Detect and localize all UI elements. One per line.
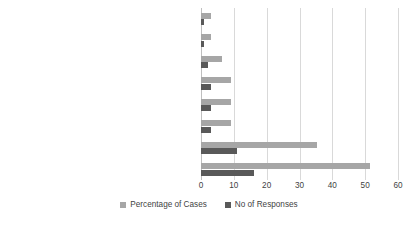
bar-percentage-of-cases[interactable] xyxy=(201,120,231,126)
bar-percentage-of-cases[interactable] xyxy=(201,77,231,83)
legend-item-percentage-of-cases[interactable]: Percentage of Cases xyxy=(120,200,206,209)
bar-no-of-responses[interactable] xyxy=(201,105,211,111)
bar-no-of-responses[interactable] xyxy=(201,62,208,68)
bar-group xyxy=(201,159,398,181)
value-axis-tick-label: 0 xyxy=(199,181,204,190)
bar-no-of-responses[interactable] xyxy=(201,84,211,90)
bar-percentage-of-cases[interactable] xyxy=(201,163,370,169)
bar-percentage-of-cases[interactable] xyxy=(201,13,211,19)
category-axis-labels: OtherLow quality of Social Insurance ser… xyxy=(0,8,197,180)
bar-percentage-of-cases[interactable] xyxy=(201,34,211,40)
bar-group xyxy=(201,51,398,73)
legend-swatch-icon xyxy=(120,202,126,208)
legend-label: No of Responses xyxy=(235,200,298,209)
bar-group xyxy=(201,30,398,52)
bar-no-of-responses[interactable] xyxy=(201,148,237,154)
plot-area xyxy=(201,8,398,180)
legend-item-no-of-responses[interactable]: No of Responses xyxy=(225,200,298,209)
value-axis-tick-label: 20 xyxy=(262,181,271,190)
bar-percentage-of-cases[interactable] xyxy=(201,142,317,148)
bar-group xyxy=(201,94,398,116)
value-axis-ticks: 0102030405060 xyxy=(201,181,398,195)
value-axis-tick-label: 10 xyxy=(229,181,238,190)
legend-swatch-icon xyxy=(225,202,231,208)
chart-legend: Percentage of Cases No of Responses xyxy=(0,200,418,209)
value-axis-tick-label: 30 xyxy=(295,181,304,190)
bar-group xyxy=(201,73,398,95)
value-axis-tick-label: 50 xyxy=(361,181,370,190)
value-axis-tick-label: 60 xyxy=(393,181,402,190)
bar-rows xyxy=(201,8,398,180)
bar-percentage-of-cases[interactable] xyxy=(201,99,231,105)
bar-no-of-responses[interactable] xyxy=(201,170,254,176)
gridline xyxy=(398,8,399,180)
value-axis-tick-label: 40 xyxy=(328,181,337,190)
legend-label: Percentage of Cases xyxy=(130,200,206,209)
bar-group xyxy=(201,116,398,138)
bar-no-of-responses[interactable] xyxy=(201,19,204,25)
bar-group xyxy=(201,8,398,30)
bar-no-of-responses[interactable] xyxy=(201,41,204,47)
bar-chart: OtherLow quality of Social Insurance ser… xyxy=(0,0,418,227)
bar-no-of-responses[interactable] xyxy=(201,127,211,133)
bar-group xyxy=(201,137,398,159)
bar-percentage-of-cases[interactable] xyxy=(201,56,222,62)
